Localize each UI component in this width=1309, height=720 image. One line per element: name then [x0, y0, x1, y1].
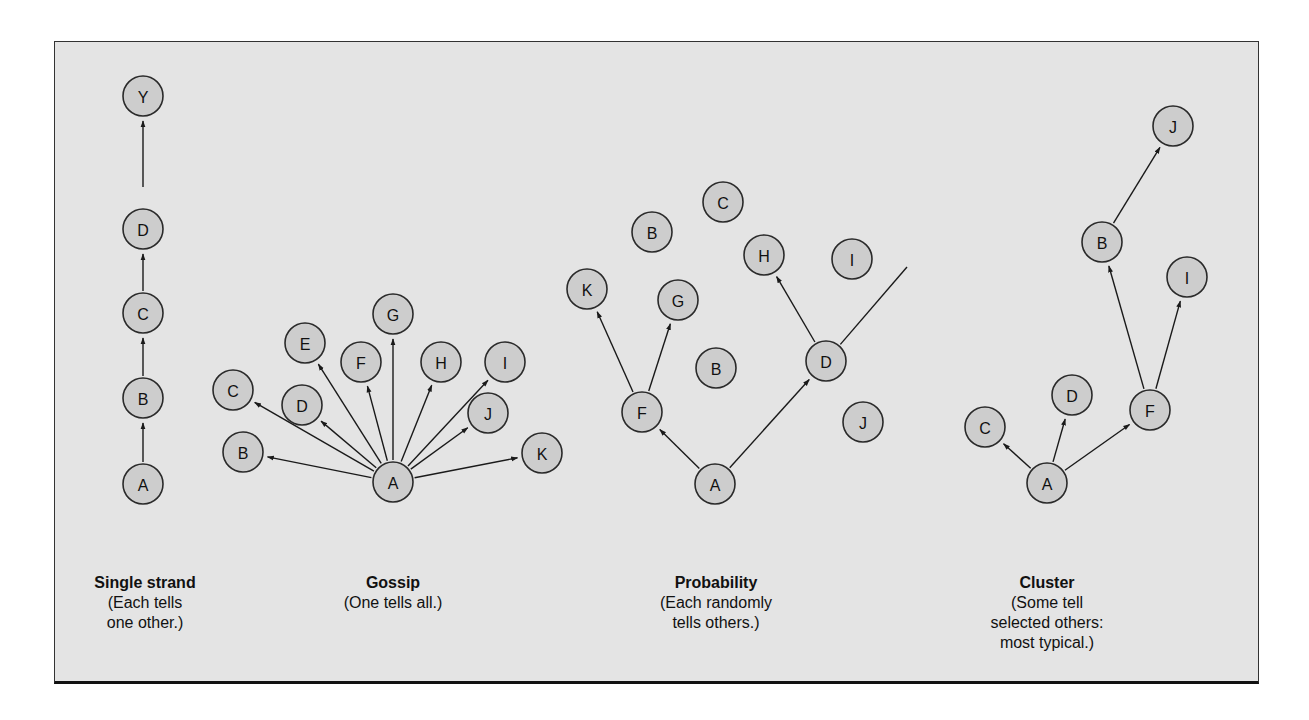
node-i: I [485, 342, 525, 382]
arrow-edge [660, 430, 700, 469]
node-label: J [484, 406, 492, 423]
node-label: D [820, 354, 832, 371]
caption-line: (Some tell [927, 593, 1167, 613]
node-y: Y [123, 76, 163, 116]
node-label: A [710, 477, 721, 494]
node-label: D [296, 398, 308, 415]
node-label: G [672, 293, 684, 310]
node-label: Y [138, 89, 149, 106]
node-i: I [1167, 257, 1207, 297]
panel-probability: CBHIKGBDFJA [567, 182, 907, 504]
node-a: A [1027, 463, 1067, 503]
node-f: F [622, 392, 662, 432]
node-d: D [1052, 375, 1092, 415]
caption-title: Probability [596, 573, 836, 593]
node-label: F [637, 405, 647, 422]
caption-line: selected others: [927, 613, 1167, 633]
node-c: C [213, 370, 253, 410]
arrow-edge [321, 421, 376, 468]
node-i: I [832, 239, 872, 279]
caption-line: one other.) [25, 613, 265, 633]
node-label: C [717, 195, 729, 212]
node-label: K [537, 446, 548, 463]
node-b: B [1082, 222, 1122, 262]
caption-line: (Each tells [25, 593, 265, 613]
caption-title: Cluster [927, 573, 1167, 593]
node-label: J [1169, 119, 1177, 136]
node-label: J [859, 415, 867, 432]
node-c: C [965, 407, 1005, 447]
node-label: I [850, 252, 854, 269]
node-f: F [341, 342, 381, 382]
caption-probability: Probability (Each randomly tells others.… [596, 573, 836, 633]
caption-title: Gossip [273, 573, 513, 593]
arrow-edge [730, 380, 810, 468]
node-d: D [806, 341, 846, 381]
node-label: I [1185, 270, 1189, 287]
node-label: B [1097, 235, 1108, 252]
caption-cluster: Cluster (Some tell selected others: most… [927, 573, 1167, 653]
node-label: B [138, 391, 149, 408]
node-c: C [703, 182, 743, 222]
node-label: A [138, 477, 149, 494]
arrow-edge [411, 428, 468, 469]
node-label: H [435, 355, 447, 372]
node-label: E [300, 336, 311, 353]
arrow-edge [415, 458, 518, 478]
caption-line: tells others.) [596, 613, 836, 633]
node-label: G [387, 307, 399, 324]
panel-cluster: JBIDFCA [965, 106, 1207, 503]
node-a: A [123, 464, 163, 504]
node-label: I [503, 355, 507, 372]
node-label: B [647, 225, 658, 242]
arrow-edge [597, 312, 633, 392]
arrow-edge [1156, 301, 1180, 389]
arrow-edge [401, 385, 432, 461]
caption-single-strand: Single strand (Each tells one other.) [25, 573, 265, 633]
arrow-edge [777, 277, 815, 342]
node-a: A [373, 462, 413, 502]
node-h: H [744, 235, 784, 275]
node-b: B [696, 348, 736, 388]
node-label: B [238, 445, 249, 462]
caption-gossip: Gossip (One tells all.) [273, 573, 513, 613]
node-label: K [582, 282, 593, 299]
node-c: C [123, 293, 163, 333]
node-label: C [137, 306, 149, 323]
node-label: A [388, 475, 399, 492]
node-label: C [979, 420, 991, 437]
node-k: K [522, 433, 562, 473]
node-d: D [282, 385, 322, 425]
node-b: B [223, 432, 263, 472]
caption-line: (Each randomly [596, 593, 836, 613]
arrow-edge [367, 386, 387, 461]
arrow-edge [649, 324, 671, 391]
node-label: H [758, 248, 770, 265]
arrow-edge [1004, 444, 1031, 468]
arrow-edge [1113, 147, 1159, 223]
node-label: F [356, 355, 366, 372]
arrow-edge [1109, 266, 1144, 389]
node-a: A [695, 464, 735, 504]
node-j: J [843, 402, 883, 442]
panel-gossip: ABCDEFGHIJK [213, 294, 562, 502]
arrow-edge [1053, 419, 1065, 462]
node-j: J [468, 393, 508, 433]
node-h: H [421, 342, 461, 382]
caption-line: most typical.) [927, 633, 1167, 653]
node-label: D [137, 222, 149, 239]
node-label: D [1066, 388, 1078, 405]
node-b: B [123, 378, 163, 418]
node-label: A [1042, 476, 1053, 493]
node-b: B [632, 212, 672, 252]
node-f: F [1130, 390, 1170, 430]
node-g: G [658, 280, 698, 320]
node-label: F [1145, 403, 1155, 420]
node-label: B [711, 361, 722, 378]
node-g: G [373, 294, 413, 334]
caption-line: (One tells all.) [273, 593, 513, 613]
arrow-edge [1065, 424, 1130, 470]
caption-title: Single strand [25, 573, 265, 593]
node-label: C [227, 383, 239, 400]
panel-single-strand: YDCBA [123, 76, 163, 504]
